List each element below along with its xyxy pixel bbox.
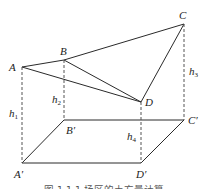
label-d: D [144, 96, 153, 108]
label-a: A [8, 61, 16, 73]
figure-caption: 图 1.1.1 场区的土方量计算 [44, 184, 164, 189]
edge-a-d [22, 67, 141, 102]
edge-a-prime-b-prime [22, 120, 64, 163]
label-a-prime: A′ [13, 168, 24, 180]
label-h2: h2 [52, 93, 62, 107]
label-d-prime: D′ [135, 168, 147, 180]
edge-b-d [64, 60, 141, 102]
label-c: C [179, 9, 187, 21]
label-h3: h3 [189, 65, 199, 79]
label-b: B [60, 45, 67, 57]
edge-b-c [64, 24, 184, 60]
edge-c-d [141, 24, 184, 102]
edge-a-b [22, 60, 64, 67]
label-h4: h4 [127, 130, 137, 144]
edge-c-prime-d-prime [141, 120, 184, 163]
label-h1: h1 [9, 107, 19, 121]
label-c-prime: C′ [188, 114, 198, 126]
label-b-prime: B′ [66, 124, 76, 136]
terrain-volume-diagram: A B C D A′ B′ C′ D′ h1 h2 h3 h4 图 1.1.1 … [0, 0, 208, 189]
